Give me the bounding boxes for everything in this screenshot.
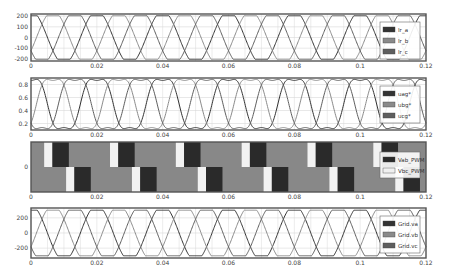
- x-tick-label: 0.08: [288, 259, 302, 266]
- x-tick-label: 0.02: [90, 131, 104, 138]
- x-tick-label: 0.06: [222, 62, 236, 69]
- y-tick-label: 200: [17, 12, 29, 19]
- legend-swatch: [383, 221, 395, 226]
- x-tick-label: 0.04: [156, 193, 170, 200]
- x-tick-label: 0.1: [355, 259, 365, 266]
- chart-stack: 2001000-100-20000.020.040.060.080.10.12I…: [0, 0, 465, 277]
- x-tick-label: 0.02: [90, 62, 104, 69]
- y-tick-label: 0.8: [18, 81, 28, 88]
- x-tick-label: 0.04: [156, 259, 170, 266]
- y-tick-label: 100: [17, 23, 29, 30]
- legend-swatch: [383, 27, 395, 32]
- x-tick-label: 0: [29, 62, 33, 69]
- x-tick-label: 0.12: [419, 259, 433, 266]
- legend-swatch: [383, 38, 395, 43]
- x-tick-label: 0.1: [355, 193, 365, 200]
- x-tick-label: 0.04: [156, 131, 170, 138]
- x-tick-label: 0.06: [222, 193, 236, 200]
- x-tick-label: 0.08: [288, 131, 302, 138]
- legend-label: Grid.vb: [398, 232, 419, 238]
- legend-swatch: [383, 102, 395, 107]
- legend: uag*ubg*ucg*: [380, 86, 420, 123]
- x-tick-label: 0.08: [288, 193, 302, 200]
- y-tick-label: 0.4: [18, 107, 28, 114]
- legend-swatch: [383, 168, 395, 173]
- y-tick-label: 0: [24, 163, 28, 170]
- plot-panel-3: 000.020.040.060.080.10.12Vab_PWMVbc_PWM: [24, 142, 433, 200]
- y-tick-label: 200: [17, 214, 29, 221]
- x-tick-label: 0.06: [222, 131, 236, 138]
- legend-swatch: [383, 232, 395, 237]
- plot-panel-2: 0.80.60.40.200.020.040.060.080.10.12uag*…: [18, 78, 432, 138]
- legend-swatch: [383, 157, 395, 162]
- y-tick-label: -200: [14, 244, 28, 251]
- y-tick-label: -100: [14, 44, 28, 51]
- x-tick-label: 0.02: [90, 259, 104, 266]
- chart-canvas: 2001000-100-20000.020.040.060.080.10.12I…: [0, 0, 465, 277]
- plot-panel-4: 2000-20000.020.040.060.080.10.12Grid.vaG…: [14, 208, 432, 266]
- x-tick-label: 0.12: [419, 193, 433, 200]
- legend-label: uag*: [398, 91, 411, 98]
- legend-swatch: [383, 91, 395, 96]
- y-tick-label: 0: [24, 229, 28, 236]
- legend: Ir_aIr_bIr_c: [380, 22, 420, 59]
- legend-label: Ir_b: [398, 38, 409, 45]
- x-tick-label: 0: [29, 259, 33, 266]
- x-tick-label: 0.12: [419, 62, 433, 69]
- legend: Grid.vaGrid.vbGrid.vc: [380, 216, 420, 253]
- legend-label: Vbc_PWM: [398, 168, 425, 175]
- legend-label: ubg*: [398, 102, 411, 109]
- x-tick-label: 0.02: [90, 193, 104, 200]
- legend-swatch: [383, 243, 395, 248]
- y-tick-label: 0.2: [18, 120, 28, 127]
- legend-label: Vab_PWM: [398, 157, 425, 164]
- legend: Vab_PWMVbc_PWM: [380, 152, 425, 178]
- legend-label: Grid.vc: [398, 243, 418, 249]
- x-tick-label: 0.06: [222, 259, 236, 266]
- x-tick-label: 0.04: [156, 62, 170, 69]
- y-tick-label: 0: [24, 34, 28, 41]
- legend-swatch: [383, 113, 395, 118]
- x-tick-label: 0: [29, 131, 33, 138]
- plot-panel-1: 2001000-100-20000.020.040.060.080.10.12I…: [14, 12, 432, 69]
- x-tick-label: 0.08: [288, 62, 302, 69]
- x-tick-label: 0.1: [355, 62, 365, 69]
- legend-label: ucg*: [398, 113, 411, 120]
- legend-label: Ir_c: [398, 49, 408, 56]
- legend-label: Grid.va: [398, 221, 418, 227]
- y-tick-label: -200: [14, 55, 28, 62]
- x-tick-label: 0: [29, 193, 33, 200]
- legend-swatch: [383, 49, 395, 54]
- y-tick-label: 0.6: [18, 94, 28, 101]
- x-tick-label: 0.1: [355, 131, 365, 138]
- x-tick-label: 0.12: [419, 131, 433, 138]
- legend-label: Ir_a: [398, 27, 408, 34]
